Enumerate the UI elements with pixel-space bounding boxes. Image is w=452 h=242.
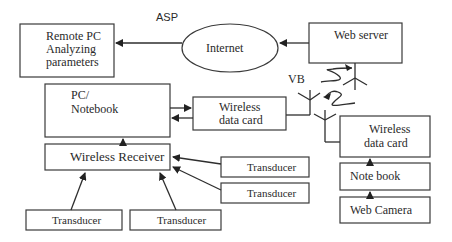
antenna-icon <box>286 90 320 115</box>
remote-pc-node: Remote PC Analyzing parameters <box>20 24 114 77</box>
web-camera-node: Web Camera <box>340 197 430 223</box>
transducer-b2-label: Transducer <box>157 214 206 226</box>
arrow-transducer-b1-to-receiver <box>71 173 85 210</box>
wireless-card-left-line1: Wireless <box>219 100 261 114</box>
internet-label: Internet <box>206 41 244 55</box>
transducer-r2-label: Transducer <box>247 187 296 199</box>
web-server-node: Web server <box>309 23 402 63</box>
transducer-r2-node: Transducer <box>221 183 309 203</box>
pc-notebook-line1: PC/ <box>71 88 90 102</box>
wireless-card-left-node: Wireless data card <box>193 97 286 130</box>
notebook-node: Note book <box>340 163 430 190</box>
web-camera-label: Web Camera <box>350 203 413 217</box>
antenna-icon <box>314 110 340 142</box>
transducer-b1-label: Transducer <box>52 214 101 226</box>
arrow-transducer-b2-to-receiver <box>160 173 176 210</box>
remote-pc-line3: parameters <box>46 55 99 69</box>
wireless-card-right-node: Wireless data card <box>340 116 430 157</box>
wireless-card-left-line2: data card <box>219 113 263 127</box>
wireless-card-right-line1: Wireless <box>369 122 411 136</box>
wireless-card-right-line2: data card <box>364 136 408 150</box>
vb-label: VB <box>288 72 305 86</box>
remote-pc-line2: Analyzing <box>46 42 96 56</box>
asp-label: ASP <box>156 11 178 23</box>
pc-notebook-line2: Notebook <box>71 102 118 116</box>
remote-pc-line1: Remote PC <box>46 29 101 43</box>
transducer-r1-label: Transducer <box>247 161 296 173</box>
wireless-receiver-label: Wireless Receiver <box>70 149 165 164</box>
notebook-label: Note book <box>350 169 400 183</box>
transducer-b1-node: Transducer <box>26 210 122 230</box>
arrow-transducer-r1-to-receiver <box>173 157 221 164</box>
pc-notebook-node: PC/ Notebook <box>45 84 170 137</box>
web-server-label: Web server <box>334 28 388 42</box>
arrow-transducer-r2-to-receiver <box>173 167 221 190</box>
system-diagram: ASP Remote PC Analyzing parameters Inter… <box>0 0 452 242</box>
internet-node: Internet <box>182 24 278 72</box>
transducer-b2-node: Transducer <box>130 210 221 230</box>
transducer-r1-node: Transducer <box>221 157 309 177</box>
wireless-receiver-node: Wireless Receiver <box>45 144 170 170</box>
